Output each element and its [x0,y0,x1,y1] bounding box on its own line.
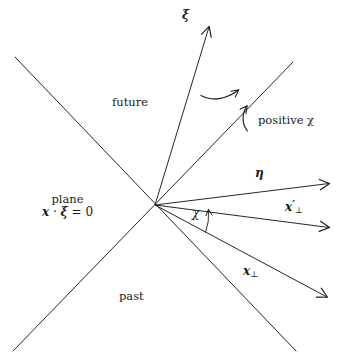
xi-vector-label: ξ [182,9,189,22]
light-cone-diagram: ξ future past plane x · ξ = 0 positive χ… [0,0,350,364]
x-perp-vector-label: x⊥ [243,265,258,280]
rotation-curved-arrow [201,90,239,99]
future-region-label: future [112,96,148,109]
xi-vector-arrow [155,27,209,205]
chi-angle-label: χ [192,206,200,220]
plane-label-equation: x · ξ = 0 [42,206,93,219]
past-region-label: past [119,290,144,303]
x-perp-vector-arrow [155,205,327,297]
positive-chi-label: positive χ [258,114,314,127]
plane-label: plane x · ξ = 0 [42,193,93,219]
diagram-canvas [0,0,350,364]
x-perp-prime-vector-label: x′⊥ [285,199,303,216]
eta-vector-label: η [255,167,264,180]
chi-angle-arc [206,210,209,233]
